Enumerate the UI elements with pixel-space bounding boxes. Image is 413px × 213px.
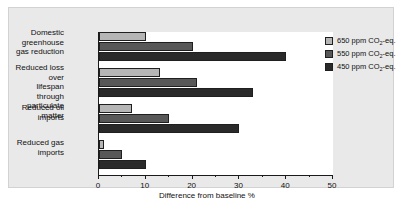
legend-label-550ppm: 550 ppm CO2-eq. bbox=[337, 49, 396, 58]
x-tick-label: 40 bbox=[281, 181, 290, 190]
x-tick-minor bbox=[215, 175, 216, 177]
x-tick bbox=[238, 175, 239, 179]
x-axis: 01020304050 bbox=[98, 175, 332, 176]
legend-item-650ppm: 650 ppm CO2-eq. bbox=[325, 35, 396, 46]
x-tick-label: 20 bbox=[187, 181, 196, 190]
bar-550ppm bbox=[99, 78, 197, 87]
x-tick bbox=[332, 175, 333, 179]
x-axis-title: Difference from baseline % bbox=[159, 191, 255, 200]
x-tick-minor bbox=[262, 175, 263, 177]
x-tick bbox=[192, 175, 193, 179]
chart-figure: Domestic greenhouse gas reduction Reduce… bbox=[0, 0, 413, 213]
x-tick-label: 10 bbox=[140, 181, 149, 190]
bar-650ppm bbox=[99, 104, 132, 113]
legend-label-650ppm: 650 ppm CO2-eq. bbox=[337, 36, 396, 45]
legend-label-450ppm: 450 ppm CO2-eq. bbox=[337, 62, 396, 71]
x-tick bbox=[145, 175, 146, 179]
plot-area bbox=[98, 32, 333, 175]
chart-panel: Domestic greenhouse gas reduction Reduce… bbox=[8, 7, 394, 188]
bar-650ppm bbox=[99, 32, 146, 41]
category-label: Reduced gas imports bbox=[17, 138, 64, 157]
bar-550ppm bbox=[99, 114, 169, 123]
legend-swatch-550ppm bbox=[325, 50, 333, 58]
category-label: Domestic greenhouse gas reduction bbox=[16, 28, 64, 57]
x-tick-label: 50 bbox=[328, 181, 337, 190]
bar-550ppm bbox=[99, 42, 193, 51]
x-tick-label: 0 bbox=[96, 181, 100, 190]
x-tick-minor bbox=[121, 175, 122, 177]
bar-650ppm bbox=[99, 140, 104, 149]
x-tick bbox=[285, 175, 286, 179]
x-tick bbox=[98, 175, 99, 179]
category-label: Reduced oil imports bbox=[22, 103, 64, 122]
legend-swatch-650ppm bbox=[325, 37, 333, 45]
x-tick-minor bbox=[309, 175, 310, 177]
bar-450ppm bbox=[99, 52, 286, 61]
bar-650ppm bbox=[99, 68, 160, 77]
bar-450ppm bbox=[99, 160, 146, 169]
bar-450ppm bbox=[99, 88, 253, 97]
x-tick-minor bbox=[168, 175, 169, 177]
legend-item-550ppm: 550 ppm CO2-eq. bbox=[325, 48, 396, 59]
x-tick-label: 30 bbox=[234, 181, 243, 190]
legend-item-450ppm: 450 ppm CO2-eq. bbox=[325, 61, 396, 72]
legend: 650 ppm CO2-eq. 550 ppm CO2-eq. 450 ppm … bbox=[325, 35, 396, 74]
legend-swatch-450ppm bbox=[325, 63, 333, 71]
bar-550ppm bbox=[99, 150, 122, 159]
bar-450ppm bbox=[99, 124, 239, 133]
